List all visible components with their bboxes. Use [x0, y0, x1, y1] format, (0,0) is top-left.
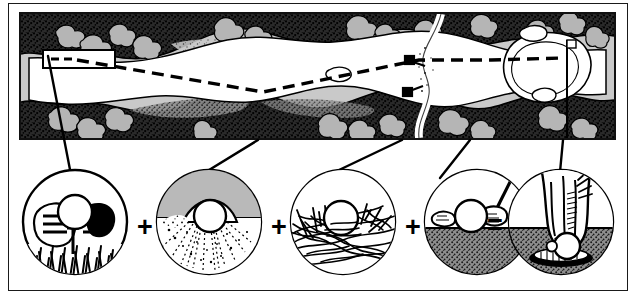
- ball-marker: [432, 212, 455, 227]
- vignette-ball-in-hole: [505, 166, 617, 278]
- ball-marker: [547, 241, 557, 251]
- operator-plus-3: +: [403, 216, 423, 238]
- golf-sequence-figure: +: [0, 0, 634, 296]
- shot-sequence: +: [19, 160, 616, 286]
- operator-equals: =: [485, 214, 505, 236]
- vignette-bunker-shot: [153, 166, 265, 278]
- golf-ball: [58, 195, 92, 229]
- golf-ball: [455, 200, 487, 232]
- plan-view-artwork: [21, 14, 614, 138]
- greenside-bunker-bottom: [532, 88, 556, 102]
- operator-plus-1: +: [135, 216, 155, 238]
- operator-plus-2: +: [269, 216, 289, 238]
- vignette-tee-shot: [19, 166, 131, 278]
- golf-ball: [554, 233, 580, 259]
- greenside-bunker-top: [519, 26, 547, 42]
- vignette-rough-lie: [287, 166, 399, 278]
- golf-hole-plan-view: [19, 12, 616, 140]
- golf-ball: [194, 200, 226, 232]
